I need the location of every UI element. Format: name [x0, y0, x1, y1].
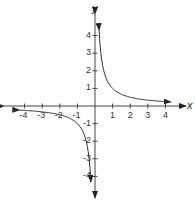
x-tick-label: -3: [37, 111, 45, 120]
left-branch-curve: [19, 110, 91, 182]
y-tick-label: -1: [83, 119, 91, 128]
x-axis-label: x: [187, 100, 193, 111]
hyperbola-plot: [0, 0, 195, 200]
x-tick-label: -1: [72, 111, 80, 120]
x-tick-label: 4: [163, 111, 168, 120]
x-tick-label: 2: [128, 111, 133, 120]
x-tick-label: 3: [145, 111, 150, 120]
y-tick-label: 2: [86, 66, 91, 75]
y-tick-label: -2: [83, 136, 91, 145]
y-tick-label: -3: [83, 154, 91, 163]
y-tick-label: 4: [86, 31, 91, 40]
x-tick-label: 1: [110, 111, 115, 120]
y-axis-label: y: [92, 3, 98, 14]
y-tick-label: 1: [86, 83, 91, 92]
y-tick-label: -4: [83, 171, 91, 180]
y-tick-label: 3: [86, 48, 91, 57]
right-branch-curve: [99, 30, 171, 102]
x-tick-label: -2: [55, 111, 63, 120]
x-tick-label: -4: [20, 111, 28, 120]
